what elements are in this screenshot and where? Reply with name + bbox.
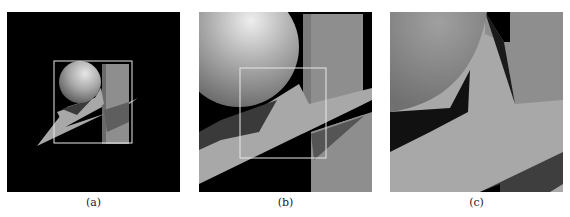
scene-c [390,12,563,192]
panel-b-image [199,12,372,192]
caption-b: (b) [199,196,372,209]
scene-a [7,12,180,192]
scene-b [199,12,372,192]
caption-a: (a) [7,196,180,209]
panel-c-image [390,12,563,192]
panel-a-image [7,12,180,192]
caption-c: (c) [390,196,563,209]
sphere [59,61,101,103]
